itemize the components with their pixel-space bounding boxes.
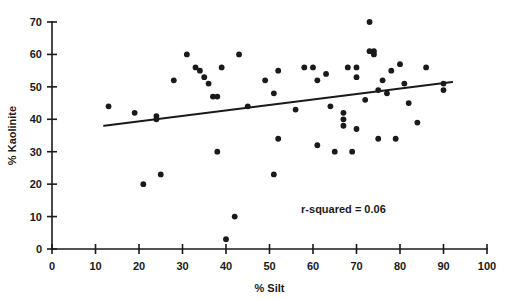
data-point	[232, 214, 238, 220]
data-point	[293, 107, 299, 113]
data-point	[219, 65, 225, 71]
data-point	[214, 94, 220, 100]
data-point	[275, 68, 281, 74]
plot-canvas: 010203040506070 0102030405060708090100 %…	[0, 0, 506, 300]
data-point	[388, 68, 394, 74]
data-point	[314, 142, 320, 148]
data-point	[367, 19, 373, 25]
y-tick-label-60: 60	[30, 48, 42, 60]
data-point	[236, 52, 242, 58]
data-point	[341, 116, 347, 122]
data-point	[328, 103, 334, 109]
data-point	[393, 136, 399, 142]
x-tick-label-80: 80	[394, 260, 406, 272]
annotations-layer: r-squared = 0.06	[301, 203, 386, 215]
y-tick-label-70: 70	[30, 16, 42, 28]
data-point	[271, 172, 277, 178]
data-point	[262, 77, 268, 83]
data-point	[371, 48, 377, 54]
data-point	[349, 149, 355, 155]
data-point	[375, 136, 381, 142]
data-point	[441, 87, 447, 93]
data-point	[132, 110, 138, 116]
x-tick-label-40: 40	[220, 260, 232, 272]
data-point	[380, 77, 386, 83]
regression-line	[104, 82, 452, 126]
data-point	[354, 126, 360, 132]
data-points-layer	[106, 19, 447, 242]
data-point	[323, 71, 329, 77]
data-point	[423, 65, 429, 71]
x-axis: 0102030405060708090100	[49, 244, 496, 272]
data-point	[354, 74, 360, 80]
y-axis-title: % Kaolinite	[6, 106, 18, 165]
x-tick-label-30: 30	[176, 260, 188, 272]
data-point	[223, 236, 229, 242]
y-axis: 010203040506070	[30, 16, 57, 255]
x-tick-label-100: 100	[478, 260, 496, 272]
y-tick-label-0: 0	[36, 243, 42, 255]
x-tick-label-10: 10	[89, 260, 101, 272]
data-point	[106, 103, 112, 109]
y-tick-label-30: 30	[30, 146, 42, 158]
x-tick-label-70: 70	[350, 260, 362, 272]
trend-line-layer	[104, 82, 452, 126]
x-tick-label-60: 60	[307, 260, 319, 272]
data-point	[362, 97, 368, 103]
data-point	[158, 172, 164, 178]
y-tick-label-20: 20	[30, 178, 42, 190]
data-point	[301, 65, 307, 71]
data-point	[197, 68, 203, 74]
data-point	[275, 136, 281, 142]
data-point	[206, 81, 212, 87]
x-tick-label-90: 90	[437, 260, 449, 272]
data-point	[341, 123, 347, 129]
x-tick-label-50: 50	[263, 260, 275, 272]
data-point	[140, 181, 146, 187]
data-point	[341, 110, 347, 116]
data-point	[310, 65, 316, 71]
data-point	[271, 90, 277, 96]
axis-labels-layer: % Silt% Kaolinite	[6, 106, 285, 294]
data-point	[401, 81, 407, 87]
data-point	[201, 74, 207, 80]
data-point	[332, 149, 338, 155]
scatter-plot-figure: 010203040506070 0102030405060708090100 %…	[0, 0, 506, 300]
data-point	[214, 149, 220, 155]
x-tick-label-0: 0	[49, 260, 55, 272]
y-tick-label-40: 40	[30, 113, 42, 125]
y-tick-label-10: 10	[30, 211, 42, 223]
r-squared-annotation: r-squared = 0.06	[301, 203, 386, 215]
data-point	[171, 77, 177, 83]
data-point	[314, 77, 320, 83]
data-point	[345, 65, 351, 71]
data-point	[354, 65, 360, 71]
x-tick-label-20: 20	[133, 260, 145, 272]
y-tick-label-50: 50	[30, 81, 42, 93]
data-point	[406, 100, 412, 106]
x-axis-title: % Silt	[255, 282, 285, 294]
data-point	[415, 120, 421, 126]
data-point	[184, 52, 190, 58]
data-point	[397, 61, 403, 67]
